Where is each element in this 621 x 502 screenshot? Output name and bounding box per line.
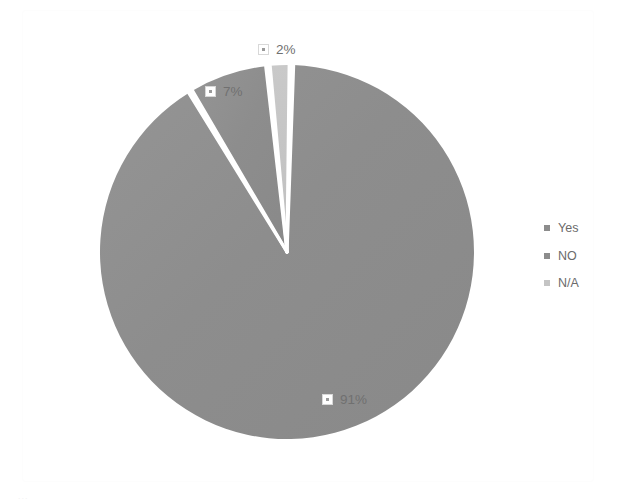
legend-label-no: NO <box>558 250 577 263</box>
data-label-no: 7% <box>205 85 243 99</box>
chart-legend: Yes NO N/A <box>544 222 579 290</box>
legend-swatch-icon <box>544 225 550 231</box>
data-label-marker-icon <box>322 394 333 405</box>
legend-item-yes[interactable]: Yes <box>544 222 579 235</box>
legend-label-yes: Yes <box>558 222 578 235</box>
data-label-na-value: 2% <box>276 43 296 57</box>
pie-svg <box>0 0 621 502</box>
data-label-yes-value: 91% <box>340 393 367 407</box>
pie-chart-figure: 2% 7% 91% Yes NO N/A ... <box>0 0 621 502</box>
data-label-marker-icon <box>205 86 216 97</box>
data-label-no-value: 7% <box>223 85 243 99</box>
legend-swatch-icon <box>544 280 550 286</box>
legend-label-na: N/A <box>558 277 579 290</box>
legend-swatch-icon <box>544 253 550 259</box>
data-label-na: 2% <box>258 43 296 57</box>
legend-item-na[interactable]: N/A <box>544 277 579 290</box>
data-label-yes: 91% <box>322 393 367 407</box>
data-label-marker-icon <box>258 44 269 55</box>
cropped-footer-artifact: ... <box>18 492 29 501</box>
legend-item-no[interactable]: NO <box>544 250 579 263</box>
